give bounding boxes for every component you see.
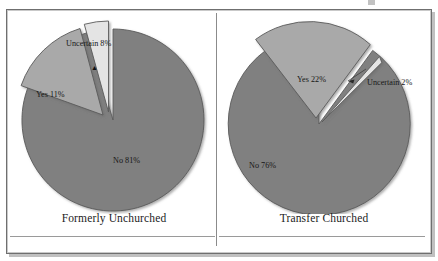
panel-formerly-unchurched: Uncertain 8% ▲ Yes 11% No 81% Formerly U…: [9, 12, 219, 251]
slice-label-uncertain: Uncertain 2%: [367, 78, 412, 87]
pie-chart-formerly-unchurched: [9, 12, 219, 214]
pie-svg-left: [9, 12, 218, 214]
panel-row: Uncertain 8% ▲ Yes 11% No 81% Formerly U…: [9, 12, 429, 251]
panel-caption-transfer-churched: Transfer Churched: [219, 212, 429, 224]
panel-divider: [216, 13, 217, 246]
slice-label-uncertain: Uncertain 8%: [66, 39, 111, 48]
slice-label-yes: Yes 22%: [297, 75, 326, 84]
slice-label-no: No 81%: [113, 156, 140, 165]
caption-rule-left: [10, 236, 215, 237]
slice-label-yes: Yes 11%: [36, 90, 65, 99]
panel-transfer-churched: Yes 22% Uncertain 2% No 76% Transfer Chu…: [219, 12, 429, 251]
pie-svg-right: [219, 12, 428, 214]
uncertain-pointer-marker-icon: ▲: [91, 64, 98, 72]
pie-chart-transfer-churched: [219, 12, 429, 214]
figure-frame: Uncertain 8% ▲ Yes 11% No 81% Formerly U…: [6, 9, 432, 254]
caption-rule-right: [219, 236, 425, 237]
panel-caption-formerly-unchurched: Formerly Unchurched: [9, 212, 219, 224]
scan-artifact: [368, 0, 375, 5]
slice-label-no: No 76%: [249, 161, 276, 170]
